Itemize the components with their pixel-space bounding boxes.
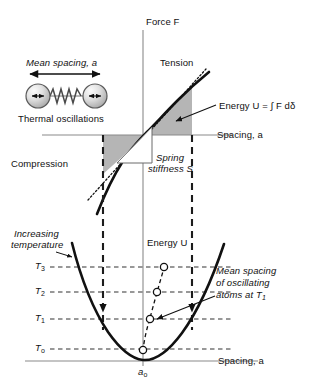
increasing-temperature-line2: temperature (11, 239, 63, 250)
temperature-tick-T0: To (35, 342, 45, 356)
temperature-tick-T1: T1 (35, 312, 45, 326)
thermal-oscillation-inset (26, 74, 107, 108)
equilibrium-spacing-label: ao (138, 366, 147, 380)
temperature-tick-T2: T2 (35, 285, 45, 299)
stiffness-label-line2: stiffness S (148, 163, 193, 174)
mean-spacing-callout-line2: of oscillating (216, 277, 270, 288)
stiffness-label-line1: Spring (156, 152, 184, 163)
thermal-oscillations-caption: Thermal oscillations (18, 113, 104, 124)
mean-spacing-callout-line1: Mean spacing (216, 265, 276, 276)
top-y-axis-label: Force F (146, 16, 179, 27)
mean-spacing-marker-T3 (160, 263, 167, 270)
mean-spacing-locus (143, 268, 164, 351)
increasing-temperature-line1: Increasing (14, 228, 59, 239)
tension-label: Tension (160, 57, 193, 68)
energy-label: Energy U = ∫ F dδ (219, 100, 295, 111)
mean-spacing-marker-T2 (153, 288, 160, 295)
bottom-y-axis-label: Energy U (147, 237, 187, 248)
temperature-tick-T3: T3 (35, 260, 45, 274)
increasing-temperature-pointer (56, 252, 72, 257)
top-x-axis-label: Spacing, a (217, 129, 263, 140)
bottom-x-axis-label: Spacing, a (218, 355, 264, 366)
dashed-guide-left-arrow (99, 304, 106, 313)
mean-spacing-marker-T0 (139, 346, 146, 353)
temperature-levels-group (50, 267, 232, 349)
compression-label: Compression (11, 158, 68, 169)
mean-spacing-label: Mean spacing, a (26, 57, 97, 68)
mean-spacing-callout-line3: atoms at T1 (216, 289, 266, 303)
mean-spacing-callout-arrow (157, 296, 215, 319)
mean-spacing-marker-T1 (146, 315, 153, 322)
